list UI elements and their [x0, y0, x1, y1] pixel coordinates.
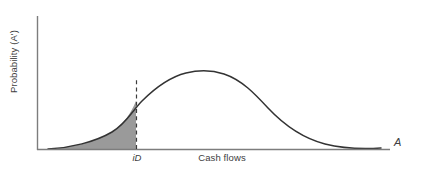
- x-axis-label: Cash flows: [186, 152, 258, 163]
- y-axis-label: Probability (A'): [8, 12, 19, 112]
- probability-distribution-figure: Probability (A') Cash flows iD A: [0, 0, 423, 174]
- shaded-tail-region: [48, 101, 136, 149]
- distribution-curve: [48, 71, 381, 149]
- x-axis-variable-label: A: [394, 136, 401, 148]
- chart-canvas: [0, 0, 423, 174]
- threshold-tick-label: iD: [124, 152, 150, 163]
